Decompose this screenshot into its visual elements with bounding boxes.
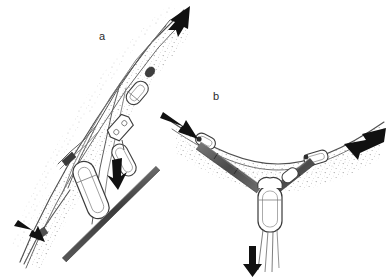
panel-b-apex-knot	[258, 177, 283, 188]
panel-a-label: a	[99, 31, 105, 42]
illustration-svg	[0, 0, 386, 280]
figure-canvas: a b	[0, 0, 386, 280]
panel-a-group	[12, 4, 190, 268]
panel-b-hanging-strands	[258, 230, 279, 272]
panel-b-left-anchor-bolt	[196, 136, 201, 141]
panel-b-group	[160, 112, 386, 277]
panel-b-right-anchor-bolt	[304, 155, 309, 160]
panel-b-label: b	[213, 91, 219, 102]
panel-b-master-point-carabiner	[258, 182, 282, 232]
